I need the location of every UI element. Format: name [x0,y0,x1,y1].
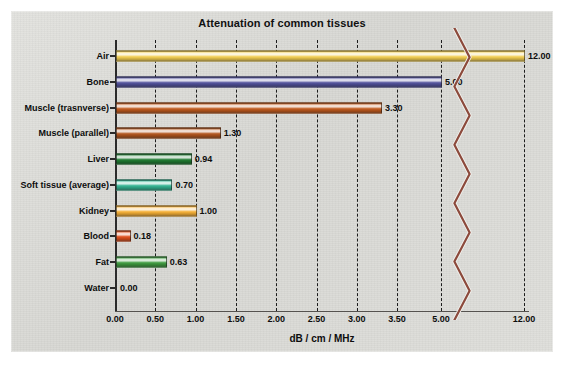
bar-value-label: 1.00 [196,206,218,216]
x-tick-label: 2.50 [308,314,326,324]
bar [116,257,167,268]
bar-value-label: 5.00 [441,77,463,87]
x-axis-line [115,311,529,312]
category-label: Muscle (trasnverse) [24,103,109,113]
bar [116,128,221,139]
bar [116,179,172,190]
category-label: Muscle (parallel) [38,128,109,138]
bar [116,51,525,62]
x-tick-label: 1.50 [227,314,245,324]
category-label: Kidney [79,206,109,216]
bar-value-label: 0.94 [191,154,213,164]
chart-page: Attenuation of common tissues AirBoneMus… [0,0,568,370]
bar-highlight [117,181,171,184]
bar-highlight [117,78,441,81]
bar-highlight [117,233,130,236]
x-tick-label: 3.50 [388,314,406,324]
bar-value-label: 12.00 [524,51,551,61]
category-label: Bone [87,77,110,87]
x-tick-label: 1.00 [187,314,205,324]
category-label: Liver [87,154,109,164]
x-tick-label: 0.50 [147,314,165,324]
bar [116,205,197,216]
bar [116,102,382,113]
bar-highlight [117,207,196,210]
x-tick-label: 3.00 [348,314,366,324]
bar-value-label: 0.63 [166,257,188,267]
category-label: Fat [96,257,110,267]
bar [116,154,192,165]
category-label: Air [96,51,109,61]
axis-break-zigzag-icon [449,28,475,320]
bar [116,76,442,87]
plot-area: AirBoneMuscle (trasnverse)Muscle (parall… [115,40,529,312]
x-axis-label: dB / cm / MHz [115,333,529,344]
bar-highlight [117,53,524,56]
chart-panel: Attenuation of common tissues AirBoneMus… [11,11,553,352]
axis-break-zigzag-svg [449,28,475,320]
bar [116,231,131,242]
x-tick-label: 5.00 [432,314,450,324]
gridline [524,40,525,311]
bar-highlight [117,259,166,262]
x-tick-label: 0.00 [106,314,124,324]
bar-value-label: 0.70 [171,180,193,190]
chart-title: Attenuation of common tissues [11,17,553,29]
category-label: Blood [84,231,110,241]
bar-highlight [117,130,220,133]
bar-value-label: 1.30 [220,128,242,138]
bar-highlight [117,156,191,159]
bar-highlight [117,104,381,107]
bar-value-label: 0.00 [116,283,138,293]
x-tick-label: 12.00 [513,314,536,324]
bar-value-label: 0.18 [130,231,152,241]
category-label: Soft tissue (average) [20,180,109,190]
category-label: Water [84,283,109,293]
x-tick-label: 2.00 [267,314,285,324]
bar-value-label: 3.30 [381,103,403,113]
